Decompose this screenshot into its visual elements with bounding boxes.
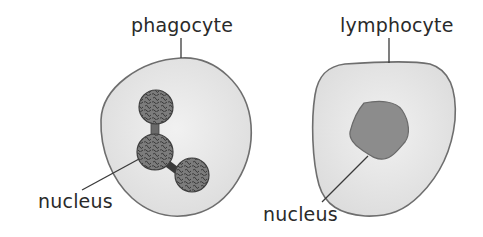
lymphocyte-label: lymphocyte [340,14,454,36]
phagocyte-label: phagocyte [131,14,233,36]
lymphocyte-cell [313,38,456,216]
phagocyte-membrane [101,58,251,216]
lymphocyte-nucleus-label: nucleus [263,203,338,225]
phagocyte-nucleus-label: nucleus [38,190,113,212]
